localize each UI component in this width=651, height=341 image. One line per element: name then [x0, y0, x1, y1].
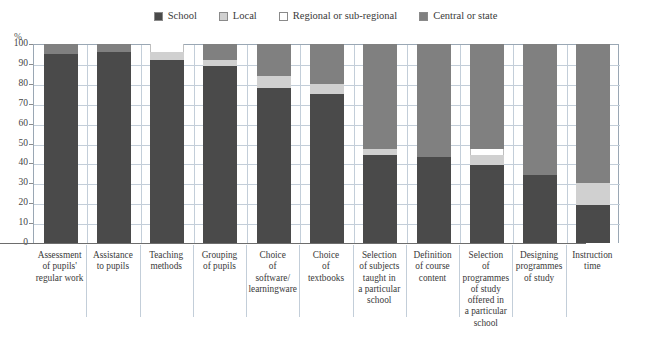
bar-stack[interactable] — [257, 44, 291, 243]
bar-stack[interactable] — [310, 44, 344, 243]
bar-stack[interactable] — [576, 44, 610, 243]
x-axis-category-label-line: textbooks — [299, 273, 352, 284]
x-axis-category-separator — [299, 245, 300, 317]
legend-item[interactable]: Central or state — [419, 11, 497, 22]
bar-segment — [203, 66, 237, 243]
x-axis-category-label-line: of course — [406, 261, 459, 272]
x-axis-category-label-line: of subjects — [353, 261, 406, 272]
x-axis-category-label-line: of study — [459, 284, 512, 295]
legend-swatch-local — [219, 12, 228, 21]
x-axis-category-separator — [353, 245, 354, 317]
x-axis-category-label-line: learningware — [246, 284, 299, 295]
bar-segment — [576, 205, 610, 243]
x-axis-baseline — [0, 243, 586, 244]
category-separator — [141, 45, 142, 244]
x-axis-category-label-line: a particular — [353, 284, 406, 295]
y-axis-tick-label: 40 — [2, 158, 28, 168]
bar-stack[interactable] — [363, 44, 397, 243]
bar-segment — [150, 44, 184, 52]
category-separator — [513, 45, 514, 244]
x-axis-category-label-line: Choice — [299, 250, 352, 261]
x-axis-category-label-line: Selection — [353, 250, 406, 261]
x-axis-category-separator — [406, 245, 407, 317]
x-axis-category-label-line: Assistance — [86, 250, 139, 261]
x-axis-category-label-line: Selection — [459, 250, 512, 261]
legend-item[interactable]: Regional or sub-regional — [279, 11, 397, 22]
x-axis-category-label: Selectionof subjectstaught ina particula… — [353, 245, 406, 337]
x-axis-category-label-line: Assessment — [33, 250, 86, 261]
bar-stack[interactable] — [417, 44, 451, 243]
bar-segment — [576, 183, 610, 205]
bar-stack[interactable] — [44, 44, 78, 243]
x-axis-category-label-line: Designing — [512, 250, 565, 261]
bar-segment — [417, 157, 451, 243]
stacked-bar-chart: SchoolLocalRegional or sub-regionalCentr… — [0, 0, 651, 341]
x-axis-category-label: Instructiontime — [566, 245, 619, 337]
y-axis-tick-label: 90 — [2, 59, 28, 69]
legend-swatch-school — [154, 12, 163, 21]
x-axis-category-label-line: regular work — [33, 273, 86, 284]
y-axis-tick-label: 80 — [2, 79, 28, 89]
x-axis-category-separator — [512, 245, 513, 317]
y-axis-tick-label: 70 — [2, 99, 28, 109]
bar-segment — [97, 44, 131, 52]
chart-legend: SchoolLocalRegional or sub-regionalCentr… — [0, 11, 651, 22]
x-axis-category-label: Assessmentof pupils'regular work — [33, 245, 86, 337]
bar-stack[interactable] — [470, 44, 504, 243]
bar-segment — [310, 94, 344, 243]
y-axis-tick-label: 30 — [2, 178, 28, 188]
legend-item[interactable]: Local — [219, 11, 257, 22]
x-axis-category-separator — [566, 245, 567, 317]
legend-swatch-regional — [279, 12, 288, 21]
bar-segment — [97, 52, 131, 243]
category-separator — [460, 45, 461, 244]
legend-item[interactable]: School — [154, 11, 197, 22]
bar-stack[interactable] — [150, 44, 184, 243]
legend-item-label: Local — [233, 11, 257, 22]
plot-area-wrapper — [33, 44, 619, 243]
x-axis-category-label-line: programmes — [459, 273, 512, 284]
bar-segment — [44, 54, 78, 243]
y-axis-tick-label: 100 — [2, 39, 28, 49]
x-axis-category-label-line: taught in — [353, 273, 406, 284]
x-axis-category-label-line: to pupils — [86, 261, 139, 272]
x-axis-category-label: Choiceofsoftware/learningware — [246, 245, 299, 337]
category-separator — [300, 45, 301, 244]
bar-segment — [417, 44, 451, 157]
bar-segment — [470, 155, 504, 165]
x-axis-category-label-line: school — [459, 318, 512, 329]
x-axis-category-separator — [140, 245, 141, 317]
x-axis-category-label-line: of pupils' — [33, 261, 86, 272]
x-axis-category-label: Selectionofprogrammesof studyoffered ina… — [459, 245, 512, 337]
bar-segment — [310, 44, 344, 84]
x-axis-category-label-line: offered in — [459, 295, 512, 306]
bar-segment — [257, 44, 291, 76]
x-axis-category-label: Definitionof coursecontent — [406, 245, 459, 337]
bar-stack[interactable] — [97, 44, 131, 243]
y-axis-tick-label: 50 — [2, 139, 28, 149]
category-separator — [407, 45, 408, 244]
x-axis-category-label-line: Definition — [406, 250, 459, 261]
x-axis-category-label-line: methods — [140, 261, 193, 272]
category-separator — [567, 45, 568, 244]
x-axis-category-label-line: Choice — [246, 250, 299, 261]
bar-segment — [257, 76, 291, 88]
bar-segment — [203, 44, 237, 60]
x-axis-category-label: Designingprogrammesof study — [512, 245, 565, 337]
x-axis-category-separator — [193, 245, 194, 317]
bar-segment — [363, 155, 397, 243]
x-axis-category-label-line: of — [459, 261, 512, 272]
bar-stack[interactable] — [203, 44, 237, 243]
bar-segment — [470, 44, 504, 149]
legend-item-label: School — [168, 11, 197, 22]
x-axis-category-label-line: of study — [512, 273, 565, 284]
x-axis-category-label-line: Grouping — [193, 250, 246, 261]
bar-segment — [150, 52, 184, 60]
x-axis-category-separator — [246, 245, 247, 317]
bar-segment — [363, 44, 397, 149]
bar-segment — [523, 44, 557, 175]
x-axis-label-band: Assessmentof pupils'regular workAssistan… — [33, 245, 619, 337]
bar-stack[interactable] — [523, 44, 557, 243]
x-axis-category-separator — [459, 245, 460, 317]
y-axis-tick-label: 60 — [2, 119, 28, 129]
